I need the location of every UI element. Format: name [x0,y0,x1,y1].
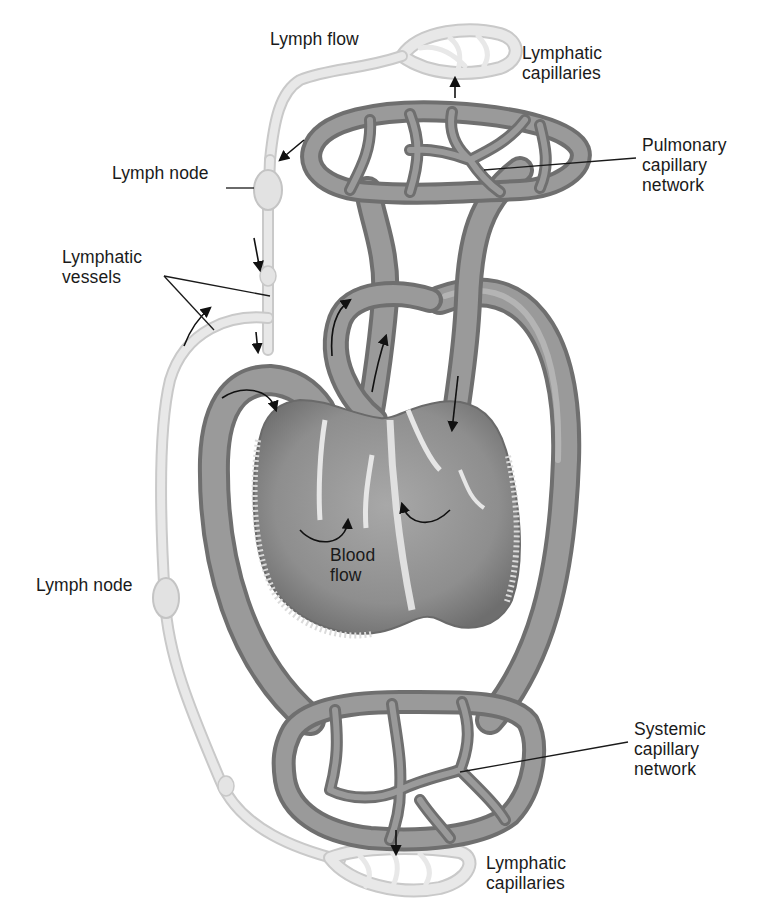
label-lymphatic-vessels: Lymphatic vessels [62,247,142,287]
label-lymphatic-capillaries-top: Lymphatic capillaries [522,43,602,83]
lymphatic-capillaries-bottom [330,848,470,890]
lymph-node-upper [254,170,282,210]
heart [254,400,520,635]
down-arrow-icon [254,238,260,270]
label-blood-flow: Blood flow [330,545,375,585]
label-lymph-flow: Lymph flow [270,29,359,49]
lymph-valve-bulge [218,776,234,796]
pulmonary-capillary-network [311,111,581,193]
label-systemic-capillary-network: Systemic capillary network [634,719,706,779]
label-pulmonary-capillary-network: Pulmonary capillary network [642,135,727,195]
label-lymph-node-bottom: Lymph node [36,575,133,595]
label-lymphatic-capillaries-bottom: Lymphatic capillaries [486,853,566,893]
label-lymph-node-top: Lymph node [112,163,209,183]
lymph-node-lower [153,578,179,618]
down-arrow-icon [256,332,258,352]
lymph-valve-bulge [260,266,276,286]
